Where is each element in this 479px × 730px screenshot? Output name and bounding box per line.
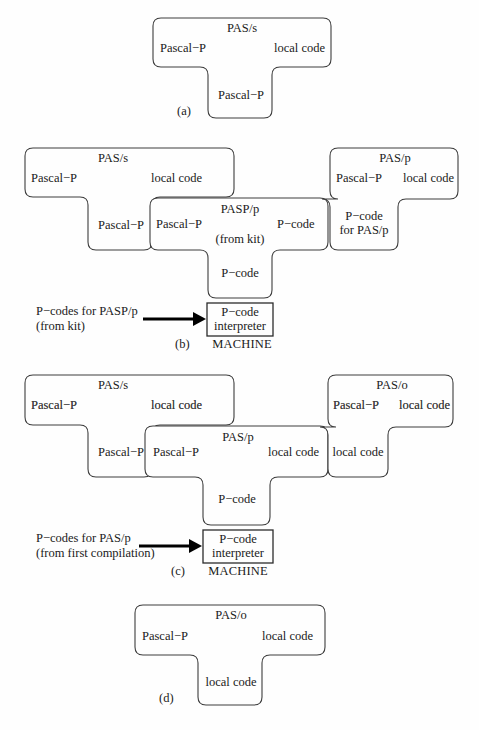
label-c0-right: local code xyxy=(151,398,202,412)
machine-input-line2-b: (from kit) xyxy=(36,320,85,334)
label-c2-stem: local code xyxy=(332,445,383,459)
label-c0-top: PAS/s xyxy=(98,378,128,392)
label-d-left: Pascal−P xyxy=(142,629,188,643)
label-b1-left: Pascal−P xyxy=(156,217,202,231)
label-c1-left: Pascal−P xyxy=(153,445,199,459)
panel-tag-c: (c) xyxy=(171,564,185,578)
label-c2-top: PAS/o xyxy=(376,378,408,392)
label-c1-top: PAS/p xyxy=(222,430,254,444)
machine-input-line1-b: P−codes for PASP/p xyxy=(36,305,138,319)
panel-tag-b: (b) xyxy=(175,337,190,351)
label-b0-left: Pascal−P xyxy=(31,171,77,185)
machine-caption-b: MACHINE xyxy=(212,337,272,351)
machine-input-line2-c: (from first compilation) xyxy=(36,547,155,561)
label-a-top: PAS/s xyxy=(227,21,257,35)
label-a-stem: Pascal−P xyxy=(218,88,264,102)
label-b2-stem: P−code xyxy=(345,210,383,224)
label-c1-right: local code xyxy=(268,445,319,459)
label-c0-stem: Pascal−P xyxy=(98,445,144,459)
label-b2-stem2: for PAS/p xyxy=(339,224,388,238)
label-b0-stem: Pascal−P xyxy=(98,218,144,232)
label-d-stem: local code xyxy=(205,675,256,689)
machine-box-label-line1-b: P−code xyxy=(221,306,259,320)
label-c2-right: local code xyxy=(399,398,450,412)
label-d-top: PAS/o xyxy=(215,608,247,622)
label-d-right: local code xyxy=(262,629,313,643)
label-b2-right: local code xyxy=(403,171,454,185)
label-b2-top: PAS/p xyxy=(379,151,411,165)
figure-canvas: PAS/s Pascal−P local code Pascal−P (a) P… xyxy=(0,0,479,730)
label-a-left: Pascal−P xyxy=(160,41,206,55)
machine-box-label-line2-c: interpreter xyxy=(212,547,264,561)
label-c2-left: Pascal−P xyxy=(333,398,379,412)
label-b1-top: PASP/p xyxy=(221,202,259,216)
label-a-right: local code xyxy=(274,41,325,55)
machine-input-line1-c: P−codes for PAS/p xyxy=(36,532,131,546)
label-b2-left: Pascal−P xyxy=(336,171,382,185)
label-b1-top2: (from kit) xyxy=(216,232,265,246)
label-b1-right: P−code xyxy=(277,217,315,231)
panel-tag-d: (d) xyxy=(159,691,174,705)
machine-arrow-head-b xyxy=(193,312,206,326)
panel-tag-a: (a) xyxy=(177,104,191,118)
machine-arrow-head-c xyxy=(189,539,202,553)
label-b1-stem: P−code xyxy=(221,266,259,280)
label-c1-stem: P−code xyxy=(218,492,256,506)
machine-box-label-line2-b: interpreter xyxy=(214,320,266,334)
label-c0-left: Pascal−P xyxy=(31,398,77,412)
machine-caption-c: MACHINE xyxy=(208,564,268,578)
machine-box-label-line1-c: P−code xyxy=(219,533,257,547)
label-b0-top: PAS/s xyxy=(98,151,128,165)
label-b0-right: local code xyxy=(151,171,202,185)
